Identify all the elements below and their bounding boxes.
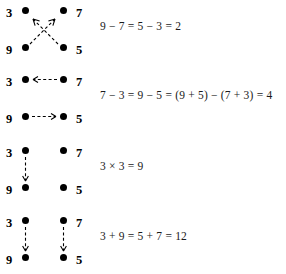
arrow-layer-4: [0, 210, 100, 270]
dot-diagram-figure: 3 7 9 5 9 − 7 = 5 − 3 = 2 3 7 9 5: [0, 0, 286, 274]
arrow-layer-3: [0, 140, 100, 200]
dot-grid-4: 3 7 9 5: [0, 210, 100, 270]
equation-1: 9 − 7 = 5 − 3 = 2: [100, 20, 181, 32]
arrow-layer-1: [0, 0, 100, 60]
dot-grid-3: 3 7 9 5: [0, 140, 100, 200]
diagram-row-4: 3 7 9 5 3 + 9 = 5 + 7 = 12: [0, 210, 286, 270]
equation-3: 3 × 3 = 9: [100, 160, 144, 172]
arrowhead-down-left-column: [23, 176, 29, 181]
arrowhead-left: [33, 77, 38, 83]
diagram-row-1: 3 7 9 5 9 − 7 = 5 − 3 = 2: [0, 0, 286, 60]
arrowhead-down-left-column-4: [23, 246, 29, 251]
arrow-layer-2: [0, 69, 100, 129]
dot-grid-2: 3 7 9 5: [0, 69, 100, 129]
arrowhead-down-right-column-4: [61, 246, 67, 251]
equation-4: 3 + 9 = 5 + 7 = 12: [100, 230, 187, 242]
arrowhead-right: [51, 114, 56, 120]
dot-grid-1: 3 7 9 5: [0, 0, 100, 60]
diagram-row-3: 3 7 9 5 3 × 3 = 9: [0, 140, 286, 200]
diagram-row-2: 3 7 9 5 7 − 3 = 9 − 5 = (9 + 5) − (7 + 3…: [0, 69, 286, 129]
equation-2: 7 − 3 = 9 − 5 = (9 + 5) − (7 + 3) = 4: [100, 89, 272, 101]
